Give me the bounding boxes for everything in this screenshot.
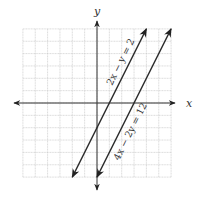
coordinate-plane: x y 2x − y = 2 4x − 2y = 12	[0, 0, 203, 201]
x-axis-label: x	[186, 97, 193, 110]
line1-label: 2x − y = 2	[104, 37, 137, 87]
axes: x y	[14, 5, 193, 190]
y-axis-label: y	[93, 5, 101, 18]
